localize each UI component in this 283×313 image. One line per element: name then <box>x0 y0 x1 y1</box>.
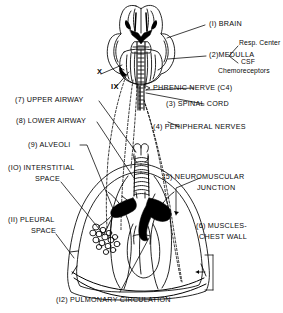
label-interstitial-space-line2: SPACE <box>35 175 60 184</box>
label-csf-chemoreceptors-line1: CSF <box>241 58 255 67</box>
label-upper-airway: (7) UPPER AIRWAY <box>15 96 84 105</box>
alveoli-cluster <box>90 214 120 255</box>
label-alveoli: (9) ALVEOLI <box>28 141 71 150</box>
label-lower-airway: (8) LOWER AIRWAY <box>16 117 86 126</box>
label-pleural-space-line1: (II) PLEURAL <box>8 216 55 225</box>
label-brain: (I) BRAIN <box>209 20 242 29</box>
label-neuromuscular-junction-line1: (5) NEUROMUSCULAR <box>163 173 244 182</box>
label-peripheral-nerves: (4) PERIPHERAL NERVES <box>153 123 246 132</box>
label-spinal-cord: (3) SPINAL CORD <box>166 100 229 109</box>
label-interstitial-space-line1: (IO) INTERSTITIAL <box>8 164 75 173</box>
label-cranial-nerve-ix: IX <box>111 83 119 92</box>
label-muscles-chest-wall-line2: CHEST WALL <box>199 233 247 242</box>
label-resp-center: Resp. Center <box>239 39 280 48</box>
brain-illustration <box>107 5 174 85</box>
label-pulmonary-circulation: (I2) PULMONARY CIRCULATION <box>56 296 171 305</box>
thorax-illustration <box>68 144 210 300</box>
label-neuromuscular-junction-line2: JUNCTION <box>197 184 235 193</box>
label-csf-chemoreceptors-line2: Chemoreceptors <box>218 67 270 76</box>
label-pleural-space-line2: SPACE <box>31 227 56 236</box>
label-muscles-chest-wall-line1: (6) MUSCLES- <box>196 222 247 231</box>
label-cranial-nerve-x: X <box>97 68 102 77</box>
label-phrenic-nerve: PHRENIC NERVE (C4) <box>153 84 232 93</box>
